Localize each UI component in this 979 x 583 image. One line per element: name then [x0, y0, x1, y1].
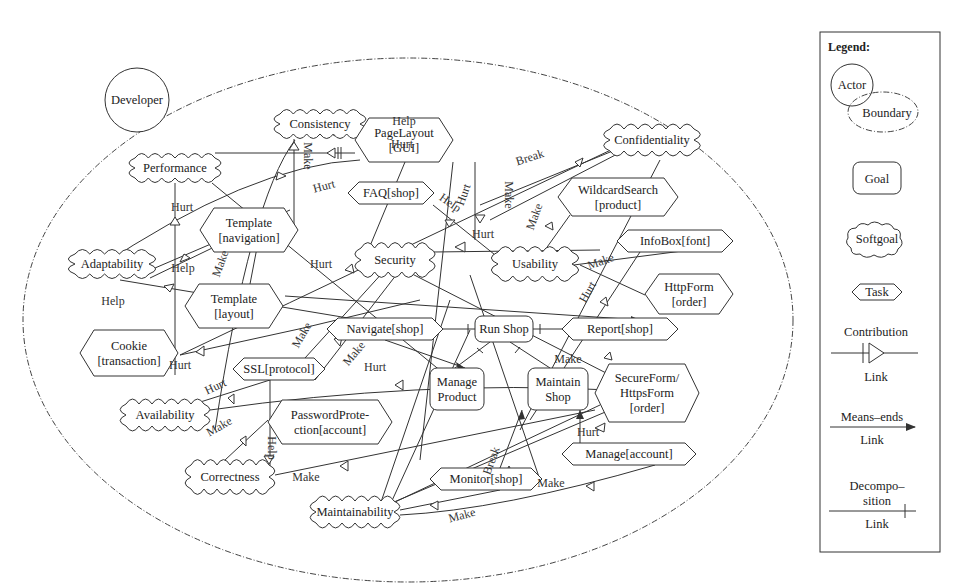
task-faq[interactable]: FAQ[shop] — [348, 182, 434, 204]
softgoal-maintainability[interactable]: Maintainability — [310, 496, 400, 528]
contribution-label: Make — [537, 476, 564, 490]
legend-decomposition-1: Decompo– — [850, 479, 906, 493]
legend-contribution-1: Contribution — [844, 325, 909, 339]
legend-title: Legend: — [828, 40, 870, 54]
goal-runshop[interactable]: Run Shop — [475, 316, 533, 342]
legend-softgoal: Softgoal — [856, 232, 899, 246]
legend-goal: Goal — [865, 172, 890, 186]
goal-manageproduct[interactable]: ManageProduct — [430, 368, 484, 410]
goal-maintainshop[interactable]: MaintainShop — [528, 368, 588, 410]
contribution-label: Make — [292, 470, 319, 484]
softgoal-availability[interactable]: Availability — [120, 399, 210, 431]
task-label: HttpForm — [664, 280, 714, 294]
contribution-label: Make — [447, 505, 477, 526]
contribution-label: Hurt — [312, 176, 338, 195]
legend-means-ends-1: Means–ends — [841, 410, 904, 424]
legend-actor: Actor — [838, 78, 867, 92]
task-label: Report[shop] — [587, 322, 653, 336]
task-wildcard[interactable]: WildcardSearch[product] — [558, 178, 678, 216]
softgoal-label: Maintainability — [316, 505, 394, 519]
contribution-label: Make — [289, 320, 315, 351]
task-cookie[interactable]: Cookie[transaction] — [80, 330, 178, 376]
task-label: [navigation] — [218, 231, 279, 245]
legend-decomposition-2: sition — [863, 494, 892, 508]
contribution-label: Hurt — [391, 137, 414, 151]
task-label: InfoBox[font] — [640, 234, 710, 248]
task-label: SSL[protocol] — [243, 362, 315, 376]
softgoal-label: Confidentiality — [614, 133, 690, 147]
softgoal-security[interactable]: Security — [355, 243, 435, 278]
softgoal-usability[interactable]: Usability — [491, 247, 578, 282]
softgoal-label: Correctness — [200, 470, 259, 484]
actor-label: Developer — [111, 93, 164, 107]
task-report[interactable]: Report[shop] — [562, 318, 678, 340]
contribution-label: Help — [392, 114, 415, 128]
task-infobox[interactable]: InfoBox[font] — [617, 230, 733, 252]
softgoal-correctness[interactable]: Correctness — [185, 460, 275, 495]
istar-diagram: Developer — [0, 0, 979, 583]
task-tmplnav[interactable]: Template[navigation] — [200, 208, 298, 252]
task-label: SecureForm/ — [615, 371, 680, 385]
task-label: HttpsForm — [620, 386, 674, 400]
contribution-label: Break — [514, 146, 546, 168]
contribution-label: Hurt — [472, 227, 495, 241]
task-label: [layout] — [214, 307, 254, 321]
contribution-label: Hurt — [171, 200, 194, 214]
contribution-label: Help — [171, 261, 194, 275]
contribution-label: Make — [523, 201, 546, 231]
contribution-label: Hurt — [577, 425, 600, 439]
softgoal-confidentiality[interactable]: Confidentiality — [604, 124, 701, 156]
task-label: Manage[account] — [585, 447, 672, 461]
task-label: Template — [226, 216, 273, 230]
task-label: Cookie — [111, 339, 148, 353]
goal-label: Run Shop — [479, 322, 529, 336]
task-label: [transaction] — [97, 354, 160, 368]
softgoal-label: Performance — [143, 161, 207, 175]
goal-label: Shop — [545, 390, 571, 404]
legend-contribution-2: Link — [864, 370, 888, 384]
task-httpform[interactable]: HttpForm[order] — [645, 274, 733, 314]
task-label: Template — [211, 292, 258, 306]
softgoal-label: Usability — [512, 257, 559, 271]
contribution-label: Help — [101, 294, 124, 308]
softgoal-label: Availability — [136, 408, 196, 422]
goal-label: Manage — [437, 375, 478, 389]
contribution-label: Hurt — [364, 360, 387, 374]
contribution-label: Hurt — [310, 257, 333, 271]
legend: Legend: Actor Boundary Goal Softgoal Tas… — [820, 32, 940, 552]
task-label: [product] — [595, 198, 642, 212]
softgoal-label: Adaptability — [81, 257, 144, 271]
legend-task: Task — [865, 285, 889, 299]
actor-developer[interactable]: Developer — [105, 68, 169, 132]
task-label: WildcardSearch — [578, 183, 659, 197]
softgoal-performance[interactable]: Performance — [129, 154, 221, 183]
softgoal-label: Consistency — [289, 117, 351, 131]
goal-label: Maintain — [535, 375, 581, 389]
task-secureform[interactable]: SecureForm/HttpsForm[order] — [595, 364, 699, 422]
task-manageacct[interactable]: Manage[account] — [562, 443, 696, 465]
contribution-label: Make — [554, 352, 581, 366]
contribution-label: Make — [209, 248, 232, 278]
legend-boundary: Boundary — [862, 106, 912, 120]
task-pwdprot[interactable]: PasswordProte-ction[account] — [268, 400, 392, 444]
task-ssl[interactable]: SSL[protocol] — [233, 358, 325, 380]
contribution-label: Make — [502, 181, 516, 208]
task-label: [order] — [672, 295, 707, 309]
task-label: FAQ[shop] — [363, 186, 419, 200]
softgoal-label: Security — [374, 253, 416, 267]
contribution-label: Make — [585, 250, 615, 273]
task-label: ction[account] — [294, 423, 366, 437]
softgoal-consistency[interactable]: Consistency — [274, 110, 366, 139]
task-navigate[interactable]: Navigate[shop] — [327, 318, 443, 340]
legend-decomposition-3: Link — [865, 517, 889, 531]
legend-means-ends-2: Link — [860, 433, 884, 447]
task-label: Navigate[shop] — [346, 322, 423, 336]
contribution-label: Make — [301, 142, 315, 169]
contribution-label: Hurt — [169, 358, 192, 372]
contribution-label: Hurt — [576, 278, 599, 305]
softgoal-adaptability[interactable]: Adaptability — [68, 250, 155, 279]
task-tmpllayout[interactable]: Template[layout] — [185, 284, 283, 328]
contribution-label: Help — [265, 436, 279, 459]
task-label: [order] — [630, 401, 665, 415]
goal-label: Product — [438, 390, 477, 404]
